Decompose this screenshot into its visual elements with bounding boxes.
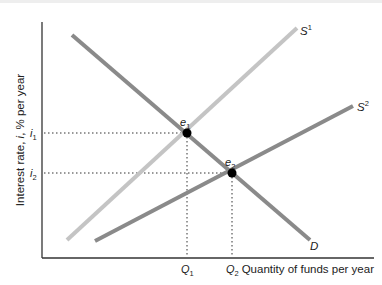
label-s1: S1	[300, 23, 312, 37]
guide-lines	[44, 133, 232, 257]
demand-curve	[72, 35, 310, 240]
x-tick-q1: Q1	[181, 263, 194, 278]
y-axis-label: Interest rate, i, % per year	[14, 74, 26, 206]
supply-demand-diagram: Interest rate, i, % per year Quantity of…	[0, 0, 382, 285]
x-tick-q2: Q2	[226, 263, 239, 278]
supply-curve-s2	[95, 106, 353, 241]
x-axis-label: Quantity of funds per year	[242, 263, 374, 275]
y-tick-i2: i2	[30, 167, 37, 182]
label-s2: S2	[357, 99, 369, 113]
y-tick-i1: i1	[30, 127, 37, 142]
label-d: D	[310, 240, 318, 252]
